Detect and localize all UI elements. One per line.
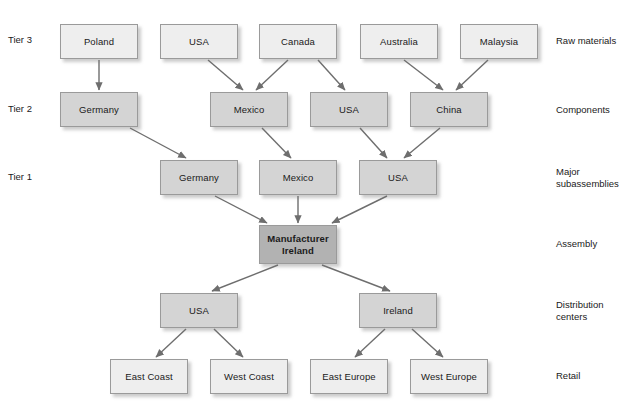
flow-arrow [214, 329, 243, 357]
node-t2-china[interactable]: China [410, 92, 488, 127]
node-label: West Europe [421, 371, 477, 383]
node-t1-usa[interactable]: USA [359, 160, 437, 195]
node-dc-ireland[interactable]: Ireland [359, 293, 437, 328]
node-label: Malaysia [480, 36, 518, 48]
node-label: East Europe [322, 371, 375, 383]
supply-chain-diagram: PolandUSACanadaAustraliaMalaysiaGermanyM… [0, 0, 629, 416]
flow-arrow [412, 329, 443, 357]
flow-arrow [262, 128, 291, 158]
node-r-west-coast[interactable]: West Coast [210, 359, 288, 394]
node-t2-germany[interactable]: Germany [60, 92, 138, 127]
flow-arrow [456, 60, 488, 90]
node-label: USA [339, 104, 359, 116]
node-t1-mexico[interactable]: Mexico [259, 160, 337, 195]
node-t3-canada[interactable]: Canada [259, 24, 337, 59]
node-label: Australia [380, 36, 418, 48]
flow-arrow [130, 128, 186, 158]
node-t3-usa[interactable]: USA [160, 24, 238, 59]
flow-arrow [212, 265, 278, 291]
node-label: Ireland [383, 305, 413, 317]
node-t1-germany[interactable]: Germany [160, 160, 238, 195]
node-manufacturer[interactable]: ManufacturerIreland [259, 225, 337, 264]
node-r-east-europe[interactable]: East Europe [310, 359, 388, 394]
node-t3-malaysia[interactable]: Malaysia [460, 24, 538, 59]
node-label: Mexico [283, 172, 314, 184]
flow-arrow [318, 60, 345, 90]
node-t3-australia[interactable]: Australia [360, 24, 438, 59]
node-label: USA [189, 305, 209, 317]
flow-arrow [404, 60, 443, 90]
node-label: Germany [179, 172, 219, 184]
node-label: Canada [281, 36, 315, 48]
node-dc-usa[interactable]: USA [160, 293, 238, 328]
tier-label-tier3: Tier 3 [8, 34, 32, 45]
node-label: West Coast [224, 371, 274, 383]
node-t2-usa[interactable]: USA [310, 92, 388, 127]
node-label: China [436, 104, 461, 116]
node-r-east-coast[interactable]: East Coast [110, 359, 188, 394]
node-label: USA [189, 36, 209, 48]
flow-arrow [215, 196, 267, 223]
edge-layer [0, 0, 629, 416]
stage-label-major-subassemblies: Majorsubassemblies [556, 166, 619, 191]
node-label: Mexico [234, 104, 265, 116]
flow-arrow [355, 329, 385, 357]
flow-arrow [208, 60, 243, 90]
node-label: Germany [79, 104, 119, 116]
node-t3-poland[interactable]: Poland [60, 24, 138, 59]
tier-label-tier1: Tier 1 [8, 171, 32, 182]
node-r-west-europe[interactable]: West Europe [410, 359, 488, 394]
flow-arrow [360, 128, 387, 158]
node-label: East Coast [125, 371, 172, 383]
stage-label-components: Components [556, 104, 610, 116]
node-label: ManufacturerIreland [267, 233, 328, 257]
stage-label-raw-materials: Raw materials [556, 35, 616, 47]
flow-arrow [404, 128, 440, 158]
stage-label-assembly: Assembly [556, 238, 597, 250]
flow-arrow [156, 329, 186, 357]
stage-label-distribution-centers: Distributioncenters [556, 299, 604, 324]
node-label: Poland [84, 36, 114, 48]
node-label: USA [388, 172, 408, 184]
node-t2-mexico[interactable]: Mexico [210, 92, 288, 127]
flow-arrow [332, 196, 387, 223]
stage-label-retail: Retail [556, 370, 580, 382]
flow-arrow [322, 265, 390, 291]
flow-arrow [256, 60, 288, 90]
tier-label-tier2: Tier 2 [8, 103, 32, 114]
